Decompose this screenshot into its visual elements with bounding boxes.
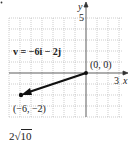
sqrt-icon: √	[15, 130, 21, 142]
magnitude-answer: 2√10	[9, 130, 32, 142]
endpoint	[19, 93, 23, 97]
y-axis-arrow-icon	[84, 2, 88, 7]
vector-diagram: y 5 x 3 v = −6i − 2j (0, 0) (−6, −2)	[0, 0, 129, 148]
x-tick-label: 3	[114, 75, 119, 86]
y-axis-label: y	[77, 1, 83, 12]
origin-point	[84, 71, 88, 75]
answer-radicand: 10	[21, 129, 32, 142]
origin-label: (0, 0)	[90, 59, 112, 71]
x-axis-label: x	[122, 75, 128, 86]
endpoint-label: (−6, −2)	[13, 103, 46, 115]
vector-equation: v = −6i − 2j	[13, 46, 61, 57]
marker-dot	[1, 2, 3, 4]
y-tick-label: 5	[79, 12, 84, 23]
